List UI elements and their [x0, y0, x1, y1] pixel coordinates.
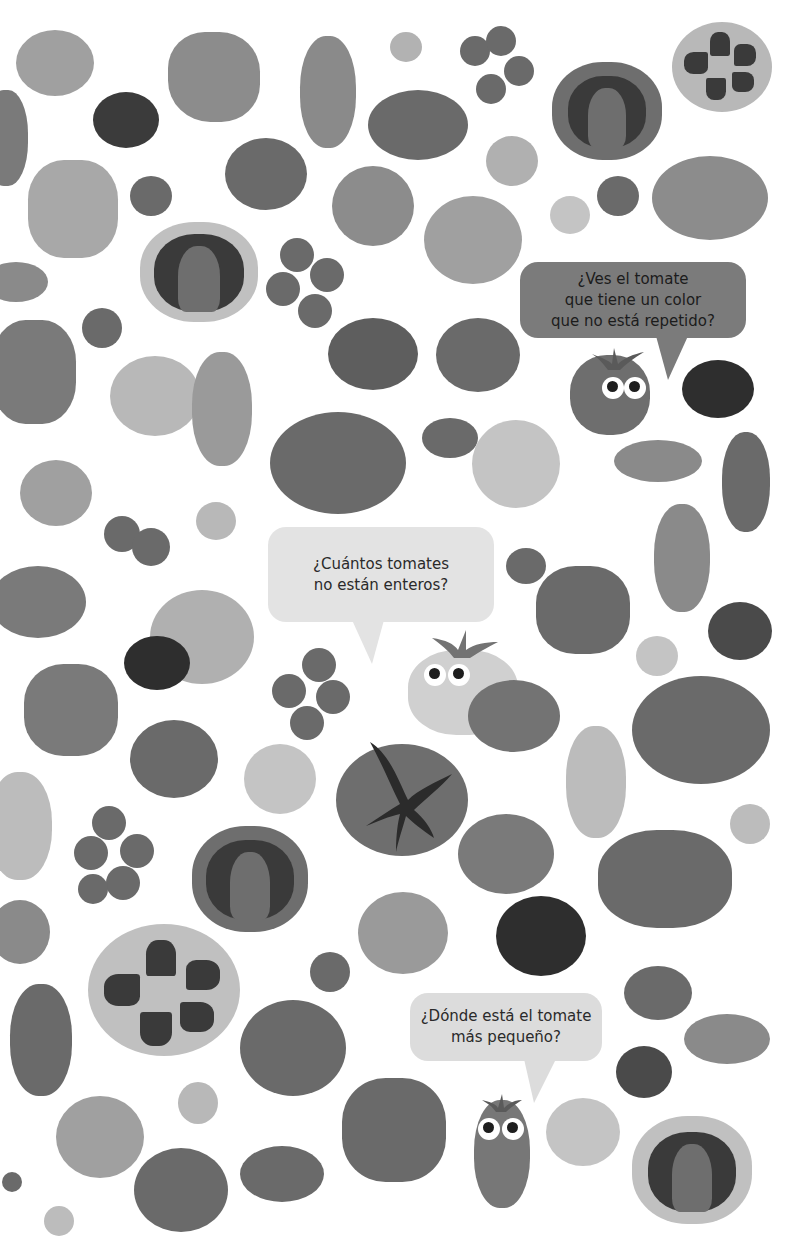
tomato-medium: [130, 720, 218, 798]
tomato-star-light: [472, 420, 560, 508]
eye-icon: [448, 664, 470, 686]
tomato-cluster: [266, 228, 356, 332]
tomato-elongated: [722, 432, 770, 532]
tomato-round-light: [546, 1098, 620, 1166]
tomato-pumpkin: [168, 32, 260, 122]
bubble-line: que tiene un color: [551, 290, 715, 311]
speech-bubble-tail: [524, 1059, 556, 1103]
tomato-slice: [672, 22, 772, 112]
tomato-cluster: [74, 806, 166, 910]
tomato-dark: [616, 1046, 672, 1098]
tomato-wide: [614, 440, 702, 482]
bubble-line: que no está repetido?: [551, 311, 715, 332]
tomato-elongated-edge: [0, 772, 52, 880]
tomato-pumpkin: [24, 664, 118, 756]
eye-icon: [624, 377, 646, 399]
tomato-slice-dark: [134, 1148, 228, 1232]
star-stem-icon: [356, 734, 466, 854]
tomato-character-bottom: [474, 1100, 530, 1208]
tomato-dark: [93, 92, 159, 148]
bubble-line: ¿Cuántos tomates: [313, 554, 449, 575]
eye-icon: [478, 1118, 500, 1140]
tomato-wide: [684, 1014, 770, 1064]
tomato-wide: [240, 1146, 324, 1202]
tomato-wide: [652, 156, 768, 240]
tomato-small: [82, 308, 122, 348]
tomato-edge: [0, 90, 28, 186]
tomato-big-slice: [88, 924, 240, 1056]
tomato-elongated: [654, 504, 710, 612]
tomato-cherry-light: [178, 1082, 218, 1124]
eye-icon: [502, 1118, 524, 1140]
tomato-cherry-light: [730, 804, 770, 844]
tomato-small-pair: [422, 418, 478, 458]
tomato-round: [424, 196, 522, 284]
tomato-edge: [0, 262, 48, 302]
tomato-round: [16, 30, 94, 96]
tomato-cherry-light: [44, 1206, 74, 1236]
tomato-slice-dark: [328, 318, 418, 390]
tomato-light: [486, 136, 538, 186]
tomato-medium: [225, 138, 307, 210]
tomato-pumpkin-wide: [598, 830, 732, 928]
tomato-cluster: [460, 26, 540, 106]
tomato-tiny: [2, 1172, 22, 1192]
tomato-small: [130, 176, 172, 216]
tomato-cherry: [196, 502, 236, 540]
tomato-light: [110, 356, 200, 436]
activity-page: ¿Ves el tomate que tiene un color que no…: [0, 0, 792, 1259]
tomato-cut-half: [140, 222, 258, 322]
tomato-large-dark: [368, 90, 468, 160]
tomato-cut-half: [552, 62, 662, 160]
tomato-front-of-character: [468, 680, 560, 752]
tomato-light: [550, 196, 590, 234]
bubble-line: no están enteros?: [313, 575, 449, 596]
tomato-elongated: [192, 352, 252, 466]
bubble-line: ¿Ves el tomate: [551, 269, 715, 290]
stem-icon: [480, 1094, 524, 1112]
tomato-large-wide: [632, 676, 770, 784]
tomato-wide-edge: [0, 566, 86, 638]
bubble-line: más pequeño?: [421, 1027, 592, 1048]
tomato-darkest: [496, 896, 586, 976]
speech-bubble-tail: [352, 620, 384, 664]
tomato-dark: [124, 636, 190, 690]
bubble-line: ¿Dónde está el tomate: [421, 1006, 592, 1027]
tomato-dark: [708, 602, 772, 660]
tomato-pumpkin: [0, 320, 76, 424]
tomato-round: [358, 892, 448, 974]
tomato-cut-half: [192, 826, 308, 932]
tomato-medium: [458, 814, 554, 894]
tomato-elongated: [300, 36, 356, 148]
tomato-cut-half: [632, 1116, 752, 1224]
tomato-elongated-light: [566, 726, 626, 838]
eye-icon: [602, 377, 624, 399]
tomato-star: [240, 1000, 346, 1096]
speech-bubble-smallest-question: ¿Dónde está el tomate más pequeño?: [410, 993, 602, 1061]
tomato-round: [56, 1096, 144, 1178]
tomato-small: [310, 952, 350, 992]
tomato-darkest: [682, 360, 754, 418]
tomato-cherry: [390, 32, 422, 62]
tomato-small: [597, 176, 639, 216]
stem-icon: [430, 630, 500, 660]
speech-bubble-color-question: ¿Ves el tomate que tiene un color que no…: [520, 262, 746, 338]
tomato-large: [270, 412, 406, 514]
tomato-small-pair: [624, 966, 692, 1020]
eye-icon: [424, 664, 446, 686]
tomato-cluster: [272, 646, 358, 742]
tomato-round: [20, 460, 92, 526]
stem-icon: [588, 348, 648, 372]
tomato-star: [332, 166, 414, 246]
tomato-cherry: [636, 636, 678, 676]
speech-bubble-whole-question: ¿Cuántos tomates no están enteros?: [268, 527, 494, 622]
tomato-cherry-light: [244, 744, 316, 814]
tomato-pumpkin: [536, 566, 630, 654]
tomato-pepper: [28, 160, 118, 258]
tomato-small: [506, 548, 546, 584]
tomato-edge: [0, 900, 50, 964]
tomato-medium: [436, 318, 520, 392]
tomato-pumpkin: [342, 1078, 446, 1182]
speech-bubble-tail: [656, 336, 688, 380]
tomato-elongated: [10, 984, 72, 1096]
